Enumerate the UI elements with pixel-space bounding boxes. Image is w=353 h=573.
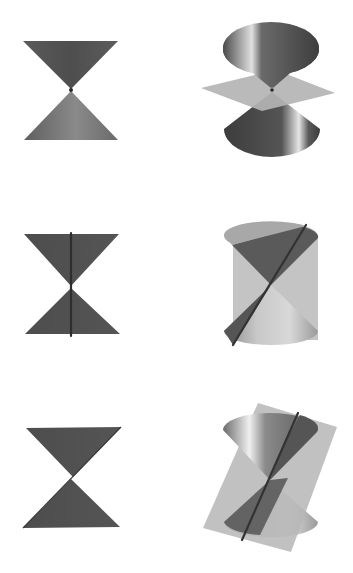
vertex-point xyxy=(69,88,73,92)
lower-nappe xyxy=(25,288,120,334)
lower-nappe xyxy=(23,479,120,528)
panel-cone-tangent-plane xyxy=(224,221,318,345)
upper-nappe xyxy=(23,41,118,89)
panel-cone-horizontal-plane xyxy=(201,22,335,157)
panel-cone-two-lines-side xyxy=(23,427,121,528)
degenerate-conics-figure xyxy=(0,0,353,573)
vertex-point xyxy=(270,88,274,92)
panel-cone-point-side xyxy=(23,41,118,140)
lower-nappe xyxy=(24,91,118,140)
upper-nappe xyxy=(26,427,121,477)
panel-cone-line-side xyxy=(24,233,120,336)
panel-cone-slanted-plane xyxy=(203,403,337,552)
